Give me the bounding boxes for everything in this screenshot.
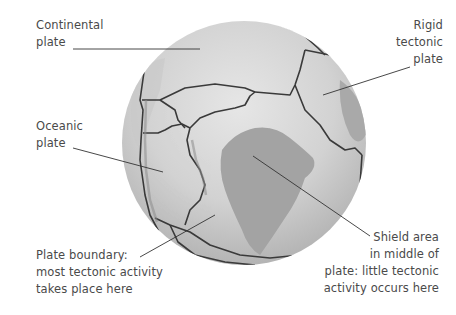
shield-area-label: Shield area in middle of plate: little t… [324,229,439,297]
tectonic-plates-diagram: Continental plate Rigid tectonic plate O… [0,0,456,315]
plate-boundary-label: Plate boundary: most tectonic activity t… [36,247,163,298]
rigid-plate-label: Rigid tectonic plate [396,17,443,68]
oceanic-plate-label: Oceanic plate [36,118,83,152]
continental-plate-label: Continental plate [36,17,104,51]
